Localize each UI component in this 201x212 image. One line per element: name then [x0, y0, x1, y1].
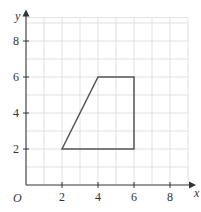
x-tick-label: 6	[131, 190, 137, 204]
x-tick-label: 4	[95, 190, 101, 204]
y-tick-label: 4	[13, 106, 19, 120]
x-tick-label: 2	[59, 190, 65, 204]
x-tick-label: 8	[167, 190, 173, 204]
y-tick-label: 2	[13, 142, 19, 156]
y-tick-label: 8	[13, 34, 19, 48]
axis-labels: x y O	[13, 9, 200, 205]
axis-ticks: 24682468	[13, 34, 173, 204]
y-tick-label: 6	[13, 70, 19, 84]
coordinate-grid: 24682468 x y O	[0, 0, 201, 212]
y-axis-arrow-icon	[23, 10, 30, 17]
origin-label: O	[13, 191, 22, 205]
y-axis-label: y	[14, 9, 21, 23]
grid-lines	[26, 18, 188, 185]
x-axis-label: x	[193, 186, 200, 200]
